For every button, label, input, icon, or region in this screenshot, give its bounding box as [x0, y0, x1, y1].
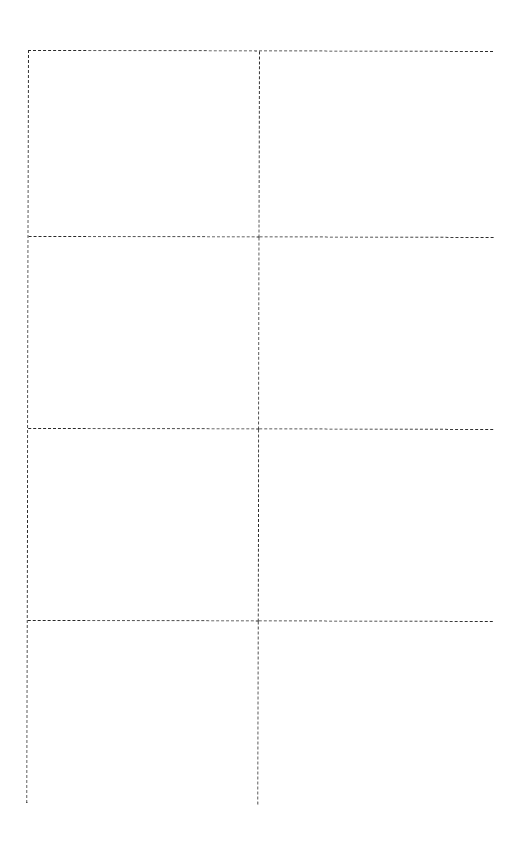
- card-cell-r4-c2: [258, 621, 492, 804]
- card-cell-r2-c1: [28, 237, 259, 429]
- card-grid: [26, 50, 493, 804]
- card-cell-r2-c2: [259, 237, 493, 429]
- card-cell-r3-c2: [259, 429, 493, 621]
- card-cell-r4-c1: [27, 621, 258, 804]
- card-cell-r1-c2: [260, 51, 494, 237]
- card-cell-r3-c1: [28, 429, 259, 621]
- page-sheet: [0, 0, 520, 845]
- card-cell-r1-c1: [29, 51, 260, 237]
